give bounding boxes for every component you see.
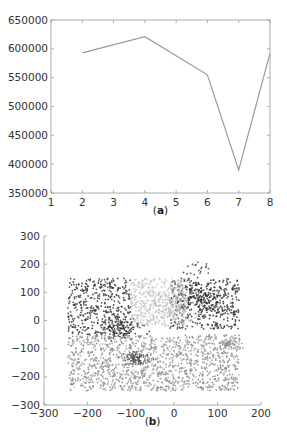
caption-close: ) [164,204,168,216]
x-tick-label: 100 [208,407,228,419]
y-tick-label: −200 [11,370,40,382]
x-tick-label: −300 [30,407,59,419]
x-tick-label: 1 [48,196,55,208]
y-tick-label: 300 [20,230,40,242]
x-tick-label: 7 [235,196,242,208]
x-tick-label: 5 [173,196,180,208]
figure: 3500004000004500005000005500006000006500… [0,0,287,446]
series-cluster-center-light [130,277,188,327]
data-line [82,37,270,170]
x-tick-label: −200 [73,407,102,419]
y-tick-label: 600000 [8,42,48,54]
y-tick-label: 0 [33,314,40,326]
y-tick-label: 200 [20,258,40,270]
series-cluster-bottom [67,334,240,392]
y-tick-label: 350000 [8,187,48,199]
series-cluster-top-right-sparse [183,261,210,278]
caption-a: (a) [153,204,168,216]
series-cluster-top-left [67,278,131,336]
y-tick-label: 450000 [8,129,48,141]
y-axis-ticks: −300−200−1000100200300 [11,230,47,411]
y-tick-label: 550000 [8,71,48,83]
figure-canvas: 3500004000004500005000005500006000006500… [0,0,287,446]
y-tick-label: 100 [20,286,40,298]
x-tick-label: 8 [267,196,274,208]
scatter-points [67,261,244,391]
y-tick-label: −100 [11,342,40,354]
caption-b: (b) [145,415,161,427]
y-tick-label: 650000 [8,14,48,26]
y-tick-label: 500000 [8,100,48,112]
x-tick-label: 3 [110,196,117,208]
x-tick-label: 6 [204,196,211,208]
caption-close: ) [156,415,160,427]
x-tick-label: 4 [142,196,149,208]
y-axis-ticks: 3500004000004500005000005500006000006500… [8,14,270,199]
x-tick-label: 2 [79,196,86,208]
y-tick-label: 400000 [8,158,48,170]
x-tick-label: 0 [171,407,178,419]
caption-letter: a [157,204,164,216]
x-axis-ticks: 12345678 [48,20,274,208]
scatter-chart-b: −300−200−1000100200300 −300−200−10001002… [11,230,271,428]
x-tick-label: −100 [116,407,145,419]
line-chart-a: 3500004000004500005000005500006000006500… [8,14,273,217]
x-tick-label: 200 [251,407,271,419]
